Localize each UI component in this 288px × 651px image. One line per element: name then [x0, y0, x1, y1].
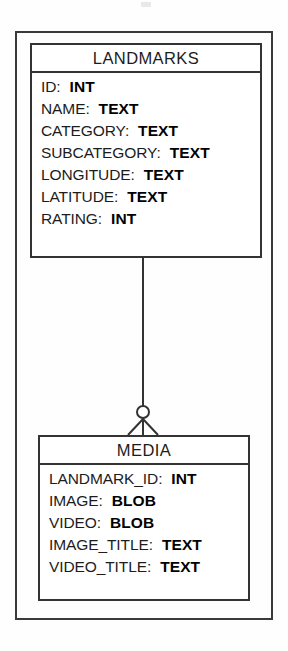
attribute-type: BLOB: [110, 514, 154, 532]
entity-media-title: MEDIA: [117, 441, 171, 460]
attribute-name: RATING:: [41, 210, 102, 228]
attribute-type: TEXT: [99, 100, 139, 118]
attribute-row: LONGITUDE: TEXT: [32, 166, 260, 188]
attribute-type: TEXT: [144, 166, 184, 184]
attribute-row: ID: INT: [32, 78, 260, 100]
attribute-row: CATEGORY: TEXT: [32, 122, 260, 144]
attribute-name: IMAGE_TITLE:: [49, 536, 153, 554]
attribute-row: VIDEO: BLOB: [40, 514, 248, 536]
attribute-name: LATITUDE:: [41, 188, 118, 206]
attribute-name: ID:: [41, 78, 61, 96]
attribute-name: NAME:: [41, 100, 90, 118]
attribute-name: VIDEO:: [49, 514, 101, 532]
attribute-row: SUBCATEGORY: TEXT: [32, 144, 260, 166]
attribute-row: LANDMARK_ID: INT: [40, 470, 248, 492]
attribute-row: NAME: TEXT: [32, 100, 260, 122]
attribute-name: VIDEO_TITLE:: [49, 558, 151, 576]
entity-landmarks-attribute-list: ID: INT NAME: TEXT CATEGORY: TEXT SUBCAT…: [32, 73, 260, 232]
attribute-name: SUBCATEGORY:: [41, 144, 161, 162]
page-edge-artifact: [141, 2, 151, 7]
attribute-name: CATEGORY:: [41, 122, 129, 140]
entity-landmarks-title: LANDMARKS: [93, 49, 199, 68]
attribute-type: TEXT: [160, 558, 200, 576]
attribute-row: VIDEO_TITLE: TEXT: [40, 558, 248, 580]
attribute-type: TEXT: [138, 122, 178, 140]
entity-landmarks-header: LANDMARKS: [32, 45, 260, 73]
attribute-row: RATING: INT: [32, 210, 260, 232]
entity-media-header: MEDIA: [40, 437, 248, 465]
attribute-type: INT: [171, 470, 196, 488]
attribute-name: IMAGE:: [49, 492, 103, 510]
attribute-row: LATITUDE: TEXT: [32, 188, 260, 210]
attribute-type: TEXT: [162, 536, 202, 554]
attribute-type: INT: [70, 78, 95, 96]
attribute-type: BLOB: [112, 492, 156, 510]
attribute-row: IMAGE: BLOB: [40, 492, 248, 514]
er-diagram-canvas: LANDMARKS ID: INT NAME: TEXT CATEGORY: T…: [0, 0, 288, 651]
entity-media[interactable]: MEDIA LANDMARK_ID: INT IMAGE: BLOB VIDEO…: [38, 435, 250, 601]
attribute-type: TEXT: [170, 144, 210, 162]
attribute-name: LANDMARK_ID:: [49, 470, 162, 488]
attribute-row: IMAGE_TITLE: TEXT: [40, 536, 248, 558]
attribute-type: INT: [111, 210, 136, 228]
attribute-type: TEXT: [127, 188, 167, 206]
attribute-name: LONGITUDE:: [41, 166, 135, 184]
entity-media-attribute-list: LANDMARK_ID: INT IMAGE: BLOB VIDEO: BLOB…: [40, 465, 248, 580]
entity-landmarks[interactable]: LANDMARKS ID: INT NAME: TEXT CATEGORY: T…: [30, 43, 262, 258]
